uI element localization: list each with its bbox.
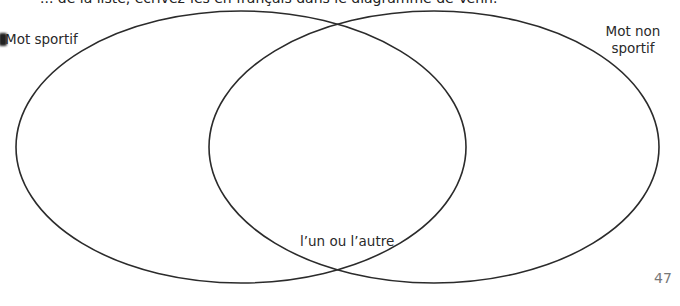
right-set-label-line1: Mot non [603,23,663,40]
page-number: 47 [654,270,672,286]
intersection-label: l’un ou l’autre [300,233,394,250]
left-set-label-text: Mot sportif [2,31,78,47]
bullet-mark [0,33,7,46]
left-set-ellipse [16,11,466,283]
right-set-label: Mot non sportif [603,23,663,57]
left-set-label: Mot sportif [2,31,78,48]
right-set-ellipse [209,11,659,283]
venn-diagram [0,0,680,306]
right-set-label-line2: sportif [603,40,663,57]
